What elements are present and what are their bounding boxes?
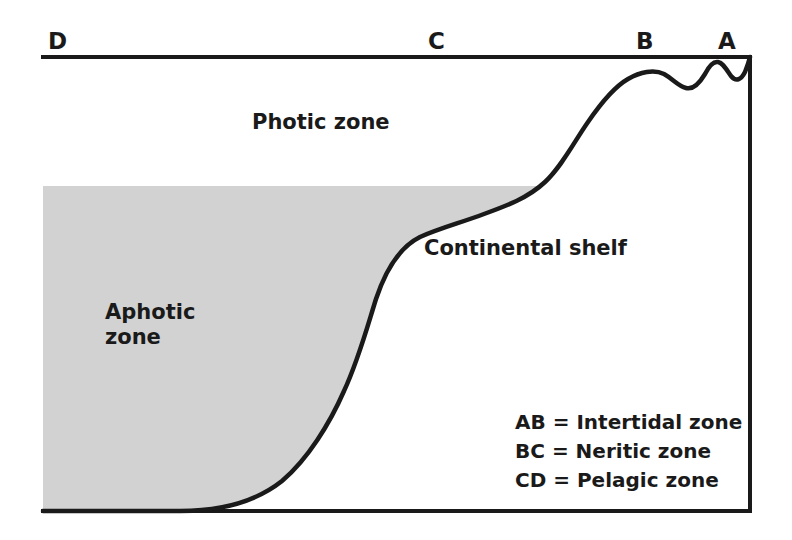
boundary-label-d: D: [48, 30, 67, 53]
legend-row-ab: AB = Intertidal zone: [515, 408, 742, 437]
legend-row-cd: CD = Pelagic zone: [515, 466, 742, 495]
legend-row-bc: BC = Neritic zone: [515, 437, 742, 466]
boundary-label-c: C: [428, 30, 445, 53]
photic-zone-label: Photic zone: [252, 110, 390, 135]
boundary-label-b: B: [636, 30, 654, 53]
zone-legend: AB = Intertidal zone BC = Neritic zone C…: [515, 408, 742, 495]
continental-shelf-label: Continental shelf: [424, 236, 627, 261]
boundary-label-a: A: [718, 30, 736, 53]
aphotic-zone-label: Aphotic zone: [105, 300, 195, 350]
aphotic-zone-label-line1: Aphotic: [105, 300, 195, 325]
aphotic-zone-label-line2: zone: [105, 325, 195, 350]
ocean-zones-diagram: D C B A Photic zone Aphotic zone Contine…: [0, 0, 792, 540]
